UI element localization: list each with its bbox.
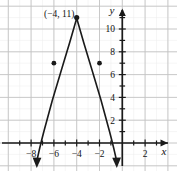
y-axis-arrowhead bbox=[119, 9, 126, 17]
y-tick-label-8: 8 bbox=[110, 47, 115, 57]
y-tick-label-10: 10 bbox=[106, 24, 116, 34]
y-tick-label-2: 2 bbox=[110, 116, 115, 126]
x-tick-label--6: −6 bbox=[49, 149, 59, 159]
curve-point-vertex bbox=[74, 15, 79, 20]
graph-figure: (−4, 11) −8 −6 −4 −2 2 2 4 6 8 10 y x bbox=[0, 0, 177, 171]
curve-point-left bbox=[52, 61, 57, 66]
axis-lines bbox=[2, 10, 168, 166]
y-tick-label-4: 4 bbox=[110, 93, 115, 103]
curve-left-arrowhead bbox=[33, 158, 42, 169]
x-tick-label-2: 2 bbox=[143, 149, 148, 159]
y-tick-label-6: 6 bbox=[110, 70, 115, 80]
curve-point-right bbox=[97, 61, 102, 66]
x-axis-label: x bbox=[161, 145, 167, 157]
x-tick-label--4: −4 bbox=[72, 149, 82, 159]
x-tick-label--2: −2 bbox=[94, 149, 104, 159]
coordinate-plane-svg: (−4, 11) −8 −6 −4 −2 2 2 4 6 8 10 y x bbox=[0, 0, 177, 171]
vertex-annotation-label: (−4, 11) bbox=[44, 9, 74, 20]
x-tick-label--8: −8 bbox=[26, 149, 36, 159]
y-axis-label: y bbox=[109, 4, 115, 16]
curve-right-arrowhead bbox=[112, 158, 121, 169]
